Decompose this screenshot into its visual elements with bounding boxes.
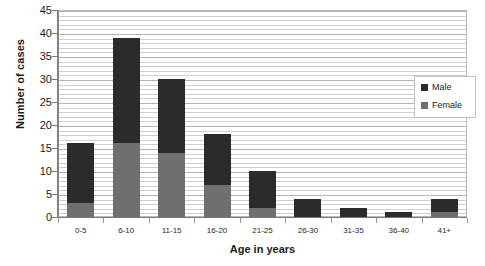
y-axis-tick-label: 35 [26,51,52,62]
x-axis-tick-labels: 0-56-1011-1516-2021-2526-3031-3536-4041+ [58,226,467,240]
bar-segment-male[interactable] [249,171,276,208]
bar-group[interactable] [204,10,231,217]
legend-swatch-icon [421,84,428,91]
bar-segment-female[interactable] [113,143,140,217]
x-axis-tick-mark [376,218,377,223]
bar-stack [249,171,276,217]
legend: MaleFemale [414,76,476,118]
x-axis-tick-label: 0-5 [58,226,103,235]
bar-stack [67,143,94,217]
x-axis-tick-mark [194,218,195,223]
bar-segment-male[interactable] [340,208,367,217]
y-axis-tick-label: 0 [26,212,52,223]
bar-segment-male[interactable] [204,134,231,185]
y-axis-tick-label: 10 [26,166,52,177]
bar-group[interactable] [158,10,185,217]
bar-group[interactable] [294,10,321,217]
bar-stack [204,134,231,217]
y-axis-tick-label: 25 [26,97,52,108]
x-axis-tick-label: 31-35 [331,226,376,235]
x-axis-tick-label: 16-20 [194,226,239,235]
x-axis-tick-mark [422,218,423,223]
bar-segment-male[interactable] [113,38,140,144]
x-axis-tick-mark [240,218,241,223]
x-axis-tick-label: 6-10 [103,226,148,235]
x-axis-tick-label: 26-30 [285,226,330,235]
bar-group[interactable] [385,10,412,217]
legend-item[interactable]: Male [421,83,470,92]
bar-stack [113,38,140,217]
bar-stack [340,208,367,217]
bar-group[interactable] [249,10,276,217]
bar-group[interactable] [67,10,94,217]
bar-segment-female[interactable] [158,153,185,217]
y-axis-tick-label: 5 [26,189,52,200]
bar-chart: Number of cases 051015202530354045 0-56-… [0,0,485,266]
bar-group[interactable] [113,10,140,217]
bar-group[interactable] [340,10,367,217]
x-axis-title: Age in years [58,243,467,255]
y-axis-tick-label: 15 [26,143,52,154]
bar-segment-female[interactable] [204,185,231,217]
x-axis-tick-mark [467,218,468,223]
legend-label: Male [432,83,452,92]
bar-stack [431,199,458,217]
x-axis-tick-mark [285,218,286,223]
x-axis-tick-mark [149,218,150,223]
legend-item[interactable]: Female [421,101,470,110]
x-axis-tick-label: 21-25 [240,226,285,235]
bar-segment-female[interactable] [249,208,276,217]
x-axis-tick-mark [331,218,332,223]
bar-segment-male[interactable] [158,79,185,153]
x-axis-tick-label: 11-15 [149,226,194,235]
bar-stack [158,79,185,217]
x-axis-tick-label: 36-40 [376,226,421,235]
y-axis-tick-labels: 051015202530354045 [26,10,52,217]
bar-segment-male[interactable] [431,199,458,213]
bar-segment-female[interactable] [67,203,94,217]
y-axis-tick-label: 45 [26,5,52,16]
bar-stack [294,199,321,217]
legend-label: Female [432,101,462,110]
x-axis-tick-label: 41+ [422,226,467,235]
x-axis-line [58,217,467,218]
y-axis-tick-label: 40 [26,28,52,39]
x-axis-tick-mark [58,218,59,223]
y-axis-title: Number of cases [14,0,26,174]
bar-segment-male[interactable] [294,199,321,217]
y-axis-tick-label: 20 [26,120,52,131]
x-axis-tick-mark [103,218,104,223]
bar-series-layer [58,10,467,217]
legend-swatch-icon [421,102,428,109]
bar-segment-male[interactable] [67,143,94,203]
y-axis-tick-label: 30 [26,74,52,85]
